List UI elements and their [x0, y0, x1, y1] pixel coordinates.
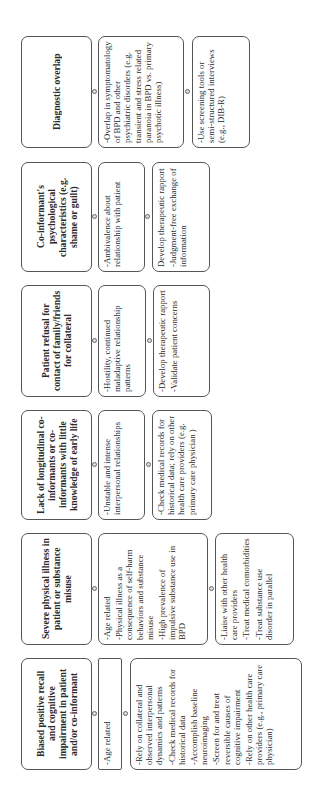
connector-icon	[123, 711, 128, 716]
challenge-box-coinformant-characteristics: Co-informant's psychological characteris…	[21, 162, 92, 272]
connector-icon	[92, 586, 97, 591]
reason-box-severe-physical-illness: -Age related -Physical illness as a cons…	[98, 533, 208, 645]
strategy-text: -Validate patient concerns	[169, 301, 179, 392]
strategy-box-lack-of-coinformants: -Check medical records for historical da…	[152, 410, 212, 520]
strategy-text: -Liaise with other health care providers	[219, 538, 239, 640]
strategy-text: -Rely on collateral and observed interpe…	[134, 663, 165, 765]
strategy-text: -Treat substance use disorder in paralle…	[254, 538, 274, 640]
connector-icon	[92, 338, 97, 343]
connector-icon	[185, 89, 190, 94]
connector-icon	[147, 338, 152, 343]
strategy-box-patient-refusal: -Develop therapeutic rapport -Validate p…	[153, 285, 210, 397]
reason-text: -Unstable and intense interpersonal rela…	[102, 415, 122, 515]
challenge-box-biased-recall: Biased positive recall and cognitive imp…	[21, 658, 92, 770]
connector-icon	[92, 711, 97, 716]
challenge-box-diagnostic-overlap: Diagnostic overlap	[21, 36, 92, 148]
reason-text: -Ambivalence about relationship with pat…	[102, 167, 122, 267]
challenge-box-patient-refusal: Patient refusal for contact of family/fr…	[21, 285, 92, 397]
strategy-text: -Treat medical comorbidities	[241, 538, 251, 640]
challenge-box-lack-of-coinformants: Lack of longitudinal co-informants or co…	[21, 410, 92, 520]
challenge-label: Co-informant's psychological characteris…	[35, 167, 79, 267]
strategy-text: -Accomplish baseline neuroimaging	[189, 663, 209, 765]
reason-box-biased-recall: -Age related	[98, 658, 122, 770]
connector-icon	[209, 586, 214, 591]
strategy-text: -Use screening tools or semi-structured …	[196, 41, 227, 143]
reason-box-coinformant-characteristics: -Ambivalence about relationship with pat…	[98, 162, 145, 272]
challenge-box-severe-physical-illness: Severe physical illness in patient or su…	[21, 533, 92, 645]
reason-text: -Age related	[102, 596, 112, 640]
strategy-text: Develop therapeutic rapport	[156, 168, 166, 267]
strategy-text: -Check medical records for historical da…	[156, 415, 197, 515]
connector-icon	[92, 462, 97, 467]
strategy-box-severe-physical-illness: -Liaise with other health care providers…	[215, 533, 294, 645]
strategy-box-coinformant-characteristics: Develop therapeutic rapport -Judgment-fr…	[152, 162, 210, 272]
strategy-text: -Rely on other health care providers (e.…	[244, 663, 275, 765]
reason-text: -Age related	[102, 721, 112, 765]
strategy-box-diagnostic-overlap: -Use screening tools or semi-structured …	[192, 36, 250, 148]
strategy-text: -Develop therapeutic rapport	[157, 290, 167, 392]
reason-box-diagnostic-overlap: -Overlap in symptomatology of BPD and ot…	[98, 36, 184, 148]
strategy-text: -Screen for and treat reversible causes …	[211, 663, 242, 765]
strategy-text: -Check medical records for historical da…	[167, 663, 187, 765]
reason-box-patient-refusal: -Hostility, continued maladaptive relati…	[98, 285, 146, 397]
connector-icon	[92, 89, 97, 94]
reason-text: -High prevalence of impulsive substance …	[157, 538, 188, 640]
challenge-label: Diagnostic overlap	[51, 54, 62, 130]
connector-icon	[92, 214, 97, 219]
connector-icon	[146, 462, 151, 467]
strategy-box-biased-recall: -Rely on collateral and observed interpe…	[130, 658, 302, 770]
challenge-label: Lack of longitudinal co-informants or co…	[35, 415, 79, 515]
reason-text: -Physical illness as a consequence of se…	[114, 538, 155, 640]
reason-text: -Hostility, continued maladaptive relati…	[102, 290, 133, 392]
reason-text: -Overlap in symptomatology of BPD and ot…	[102, 41, 163, 143]
reason-box-lack-of-coinformants: -Unstable and intense interpersonal rela…	[98, 410, 145, 520]
strategy-text: -Judgment-free exchange of information	[168, 167, 188, 267]
connector-icon	[145, 214, 150, 219]
challenge-label: Biased positive recall and cognitive imp…	[35, 663, 79, 765]
challenge-label: Severe physical illness in patient or su…	[40, 538, 73, 640]
challenge-label: Patient refusal for contact of family/fr…	[40, 290, 73, 392]
